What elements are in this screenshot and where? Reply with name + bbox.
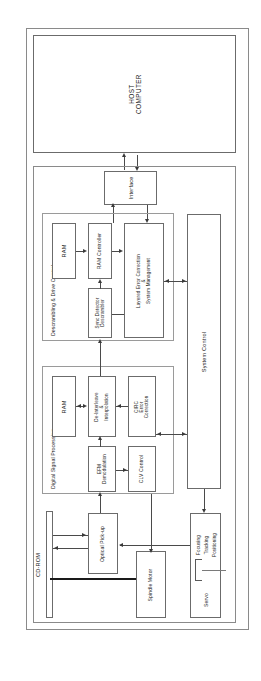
ramctrl-to-lec-arrow [119, 249, 123, 253]
disc-to-pickup-line [53, 548, 88, 549]
spindle-motor-label: Spindle Motor [148, 568, 154, 601]
servo-bracket-stem [202, 570, 226, 571]
pickup-to-efm-arrow [98, 492, 102, 496]
spindle-motor-block: Spindle Motor [136, 551, 166, 618]
interface-ramctrl-arrow [111, 203, 115, 207]
disc-to-pickup-arrow [54, 546, 58, 550]
ramdsp-to-deint-arrow [83, 404, 87, 408]
efm-to-clv-arrow [123, 468, 127, 472]
servo-item-tracking: Tracking [204, 536, 209, 555]
pickup-to-disc-arrow [82, 533, 86, 537]
interface-label: Interface [127, 176, 133, 199]
clv-control-block: CLV Control [128, 446, 156, 492]
pickup-to-efm-line [100, 494, 101, 513]
sysctrl-to-dsp-arrow [157, 432, 161, 436]
system-control-label: System Control [201, 331, 207, 371]
ram-top-block: RAM [52, 223, 76, 279]
clv-to-spindle-line [151, 494, 152, 551]
ram-dsp-block: RAM [52, 376, 76, 437]
circ-error-correction-block: CIRCErrorCorrection [128, 376, 156, 437]
servo-bracket [195, 559, 202, 581]
servo-to-pickup-line [120, 545, 190, 546]
sync-to-lec-line [112, 314, 124, 315]
optical-pickup-label: Optical Pick-up [100, 526, 106, 562]
host-interface-arrow-up [122, 153, 126, 157]
clv-control-label: CLV Control [139, 455, 145, 484]
layered-error-correction-block: Layered Error Correction&System Manageme… [124, 223, 164, 338]
ram-dsp-label: RAM [61, 400, 67, 413]
circ-error-correction-label: CIRCErrorCorrection [134, 395, 149, 418]
servo-label: Servo [204, 593, 210, 607]
ram-controller-block: RAM Controller [88, 223, 112, 279]
servo-item-focusing: Focusing [196, 535, 201, 555]
system-control-block: System Control [187, 214, 221, 489]
host-computer-label: HOSTCOMPUTER [127, 74, 141, 114]
group-dsp-label: Digital Signal Processing [50, 429, 56, 489]
sysctrl-to-servo-arrow [202, 509, 206, 513]
efm-to-deint-arrow [98, 436, 102, 440]
efm-demodulation-label: EFMDemodulation [97, 454, 107, 484]
dsp-to-sysctrl-arrow [182, 432, 186, 436]
sync-detector-descrambler-block: Sync DetectorDescrambler [88, 288, 112, 338]
cdrom-disc [46, 511, 53, 618]
host-computer-block: HOSTCOMPUTER [33, 35, 236, 153]
optical-pickup-block: Optical Pick-up [88, 513, 118, 574]
layered-error-correction-label: Layered Error Correction&System Manageme… [136, 253, 151, 307]
efm-demodulation-block: EFMDemodulation [88, 446, 116, 492]
deint-to-ramdsp-arrow [77, 404, 81, 408]
deinterleave-interpolation-block: De-Interleave&Interpolation [88, 376, 116, 437]
spindle-disc-belt [50, 578, 136, 580]
ram-to-ramctrl-arrow [83, 249, 87, 253]
ram-top-label: RAM [61, 245, 67, 258]
interface-block: Interface [104, 171, 157, 205]
sync-detector-descrambler-label: Sync DetectorDescrambler [95, 298, 105, 329]
deinterleave-interpolation-label: De-Interleave&Interpolation [94, 392, 109, 422]
sync-to-ramctrl-arrow [98, 279, 102, 283]
ram-controller-label: RAM Controller [97, 233, 103, 269]
circ-to-deint-arrow [117, 404, 121, 408]
lec-to-sysctrl-arrow [182, 279, 186, 283]
clv-to-spindle-arrow [149, 549, 153, 553]
sysctrl-to-servo-line [204, 489, 205, 511]
sysctrl-to-lec-arrow [165, 279, 169, 283]
servo-block: Servo Focusing Tracking Positioning [190, 513, 221, 618]
deint-to-lec-line [100, 341, 101, 376]
deint-to-lec-arrow [98, 339, 102, 343]
servo-item-positioning: Positioning [212, 533, 217, 557]
servo-to-pickup-arrow [119, 543, 123, 547]
